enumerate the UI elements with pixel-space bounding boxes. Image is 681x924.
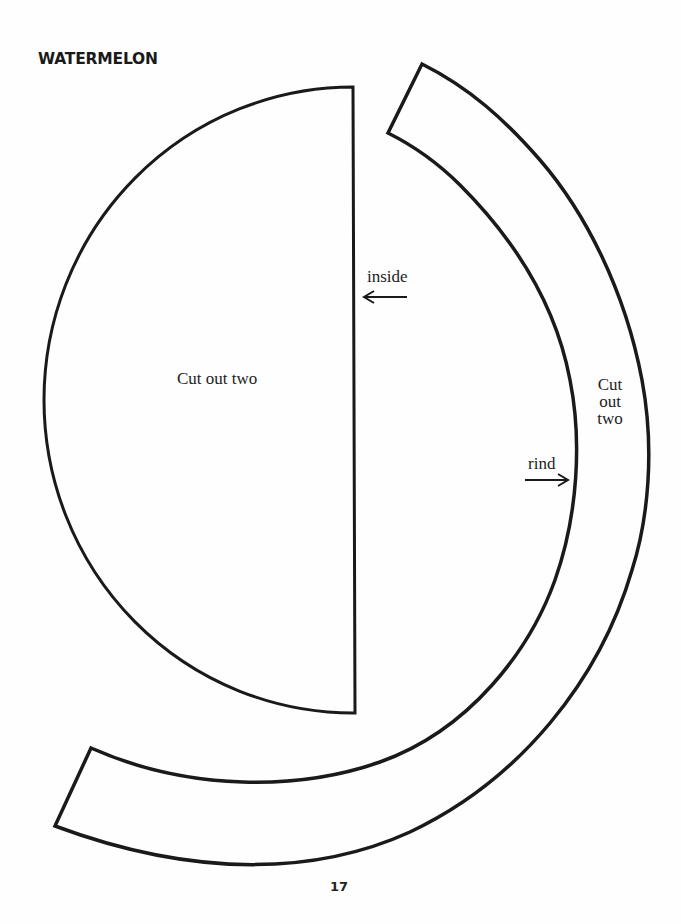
inside-cut-instruction: Cut out two [177, 370, 257, 387]
inside-piece-outline [44, 87, 355, 713]
inside-pointer-label: inside [367, 268, 408, 285]
rind-cut-line-3: two [592, 410, 628, 427]
rind-cut-instruction: Cut out two [592, 376, 628, 427]
rind-pointer-label: rind [528, 455, 555, 472]
inside-arrow-icon [364, 291, 407, 303]
rind-cut-line-1: Cut [592, 376, 628, 393]
rind-arrow-icon [525, 474, 568, 486]
pattern-artwork [0, 0, 681, 924]
rind-cut-line-2: out [592, 393, 628, 410]
pattern-page: WATERMELON inside Cut out two rind Cut o… [0, 0, 681, 924]
page-number: 17 [330, 879, 348, 894]
